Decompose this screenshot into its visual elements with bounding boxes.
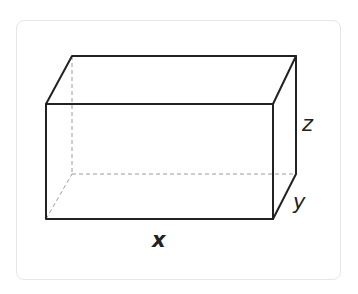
hidden-edge-bottom-left-depth — [46, 174, 72, 219]
hidden-edges — [46, 56, 296, 219]
rectangular-prism-diagram: z y x — [0, 0, 358, 294]
top-face-edges — [46, 56, 296, 104]
label-z: z — [301, 112, 314, 136]
label-y: y — [292, 190, 306, 214]
front-face — [46, 104, 273, 219]
label-x: x — [151, 228, 167, 252]
visible-edges — [46, 56, 296, 219]
